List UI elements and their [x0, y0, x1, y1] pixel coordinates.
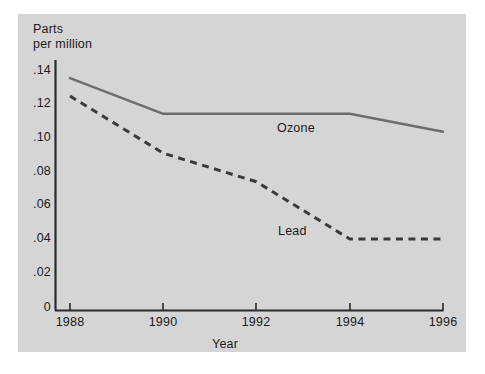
y-axis-title: Parts per million	[33, 22, 92, 51]
x-tick-label-1994: 1994	[327, 315, 373, 329]
y-tick-label-0.14: .14	[25, 63, 51, 77]
y-tick-label-0.08: .08	[25, 164, 51, 178]
chart-figure: Parts per million .14 .12 .10 .08 .06 .0…	[0, 0, 485, 374]
y-tick-label-0.10: .10	[25, 130, 51, 144]
x-tick-label-1996: 1996	[420, 315, 466, 329]
series-line-lead	[70, 96, 443, 239]
y-axis-title-line1: Parts	[33, 22, 92, 37]
y-tick-label-0.06: .06	[25, 197, 51, 211]
y-axis-title-line2: per million	[33, 37, 92, 52]
y-tick-label-0.04: .04	[25, 231, 51, 245]
series-label-lead: Lead	[278, 224, 307, 238]
y-tick-label-0.12: .12	[25, 96, 51, 110]
x-axis-ticks	[70, 303, 443, 311]
x-axis-title: Year	[212, 337, 238, 351]
y-tick-label-0: 0	[25, 300, 51, 314]
y-tick-label-0.02: .02	[25, 265, 51, 279]
x-tick-label-1992: 1992	[233, 315, 279, 329]
series-line-ozone	[70, 78, 443, 132]
x-tick-label-1990: 1990	[140, 315, 186, 329]
x-tick-label-1988: 1988	[47, 315, 93, 329]
series-label-ozone: Ozone	[277, 121, 315, 135]
